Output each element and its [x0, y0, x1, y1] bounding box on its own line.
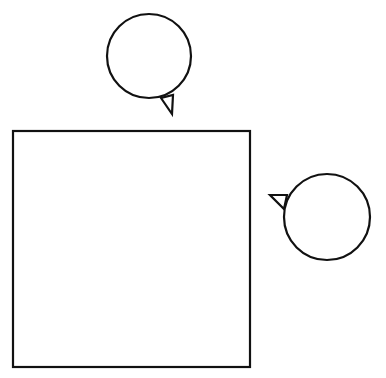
bubble-tail-top — [161, 95, 173, 114]
bubble-circle-right — [284, 174, 370, 260]
diagram-canvas — [0, 0, 386, 378]
square-shape — [13, 131, 250, 367]
speech-bubble-right — [270, 174, 370, 260]
speech-bubble-top — [107, 14, 191, 114]
bubble-circle-top — [107, 14, 191, 98]
